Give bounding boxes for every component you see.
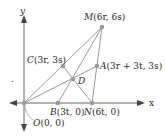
label-D: D [77, 76, 85, 86]
point-M [100, 25, 105, 30]
label-M: M(6r, 6s) [83, 12, 125, 22]
x-axis-label: x [149, 98, 154, 108]
stray-mark: . [11, 74, 14, 84]
coordinate-diagram: y x M(6r, 6s) C(3r, 3s) A(3r + 3t, 3s) D… [0, 0, 166, 137]
label-A: A(3r + 3t, 3s) [99, 61, 162, 71]
point-B [56, 101, 61, 106]
label-N: N(6t, 0) [83, 107, 120, 117]
point-N [90, 101, 95, 106]
y-axis-down-arrow-icon [21, 124, 27, 132]
label-B: B(3t, 0) [49, 107, 84, 117]
label-O: O(0, 0) [33, 118, 65, 128]
x-axis-right-arrow-icon [137, 100, 145, 106]
x-axis-left-arrow-icon [9, 100, 17, 106]
label-C: C(3r, 3s) [27, 55, 66, 65]
segment-OA [24, 66, 97, 103]
origin-leader-line [24, 103, 33, 120]
y-axis-label: y [19, 6, 26, 16]
point-D [71, 77, 76, 82]
point-A [95, 64, 100, 69]
y-axis-up-arrow-icon [21, 15, 27, 23]
